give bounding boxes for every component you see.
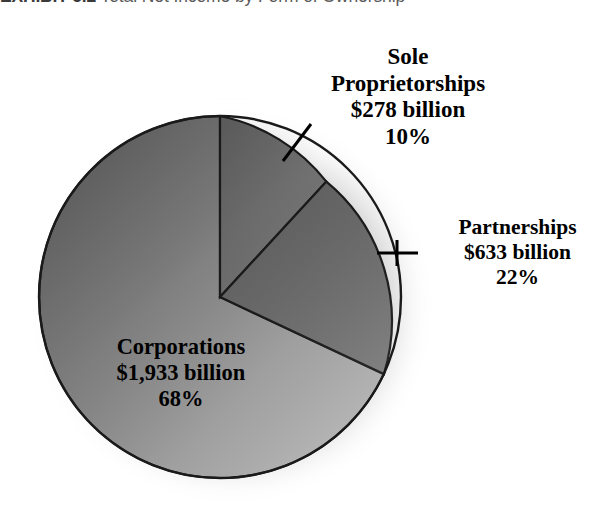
label-corporations: Corporations $1,933 billion 68% (62, 334, 300, 412)
label-partnerships: Partnerships $633 billion 22% (420, 215, 615, 290)
label-sole-proprietorships: Sole Proprietorships $278 billion 10% (285, 44, 531, 151)
chart-screenshot: EXHIBIT 5.2 Total Net Income by Form of … (0, 0, 615, 515)
label-sole-proprietorships-name-line1: Sole (285, 44, 531, 71)
label-partnerships-percent: 22% (420, 265, 615, 290)
label-corporations-name: Corporations (62, 334, 300, 360)
label-sole-proprietorships-name-line2: Proprietorships (285, 71, 531, 98)
label-corporations-percent: 68% (62, 386, 300, 412)
label-sole-proprietorships-percent: 10% (285, 124, 531, 151)
label-partnerships-name: Partnerships (420, 215, 615, 240)
label-sole-proprietorships-amount: $278 billion (285, 97, 531, 124)
label-partnerships-amount: $633 billion (420, 240, 615, 265)
label-corporations-amount: $1,933 billion (62, 360, 300, 386)
